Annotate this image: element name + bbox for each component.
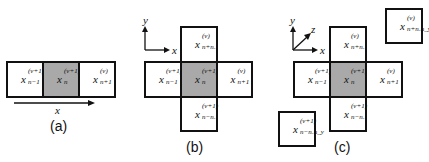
cell-c-center: x(ν+1)n — [329, 61, 367, 98]
label: x(ν+1)n−1 — [308, 74, 316, 85]
label: x(ν)n+nₓ — [344, 39, 352, 50]
cell-c-bottom: x(ν+1)n−nₓ — [329, 96, 367, 132]
z-axis-label: z — [311, 23, 315, 35]
label: x(ν+1)n — [344, 74, 352, 85]
cell-c-near: x(ν+1)n−nₓn_y — [278, 111, 316, 147]
cell-c-top: x(ν)n+nₓ — [329, 26, 367, 63]
cell-c-far: x(ν)n+nₓn_y — [385, 8, 423, 44]
label: x(ν+1)n−nₓ — [344, 109, 352, 120]
caption-c: (c) — [334, 139, 350, 155]
y-axis-label: y — [290, 14, 295, 26]
x-axis-label: x — [320, 44, 325, 56]
cell-c-left: x(ν+1)n−1 — [293, 61, 331, 98]
label: x(ν)n+nₓn_y — [400, 21, 408, 32]
cell-c-right: x(ν)n+1 — [365, 61, 403, 98]
label: x(ν+1)n−nₓn_y — [293, 124, 301, 135]
label: x(ν)n+1 — [380, 74, 388, 85]
